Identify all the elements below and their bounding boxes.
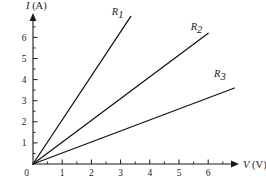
tick-labels-group: 1234561234560 [22, 33, 211, 178]
data-series-group [33, 16, 234, 164]
y-tick-label: 6 [22, 33, 27, 43]
x-tick-label: 6 [206, 168, 211, 178]
y-tick-label: 5 [22, 54, 27, 64]
figure-container: 1234561234560 R1R2R3 V (V)I (A) [0, 0, 266, 185]
origin-label: 0 [24, 168, 29, 178]
iv-characteristic-chart: 1234561234560 R1R2R3 V (V)I (A) [0, 0, 266, 185]
x-tick-label: 2 [89, 168, 94, 178]
series-labels-group: R1R2R3 [111, 6, 226, 82]
x-axis-arrow-icon [231, 161, 239, 168]
x-tick-label: 1 [60, 168, 65, 178]
y-tick-label: 3 [22, 96, 27, 106]
x-axis-label: V (V) [243, 159, 266, 171]
series-label-r3: R3 [213, 68, 226, 82]
x-tick-label: 3 [118, 168, 123, 178]
y-axis-arrow-icon [30, 13, 37, 21]
axes-group [30, 13, 239, 167]
y-tick-label: 4 [22, 75, 27, 85]
x-tick-label: 4 [147, 168, 152, 178]
data-line-r3 [33, 88, 234, 164]
y-tick-label: 2 [22, 117, 27, 127]
y-tick-label: 1 [22, 138, 27, 148]
y-axis-label: I (A) [25, 0, 47, 12]
x-tick-label: 5 [177, 168, 182, 178]
axis-labels-group: V (V)I (A) [25, 0, 266, 171]
data-line-r2 [33, 33, 208, 164]
data-line-r1 [33, 16, 131, 164]
series-label-r1: R1 [111, 6, 124, 20]
series-label-r2: R2 [190, 21, 203, 35]
